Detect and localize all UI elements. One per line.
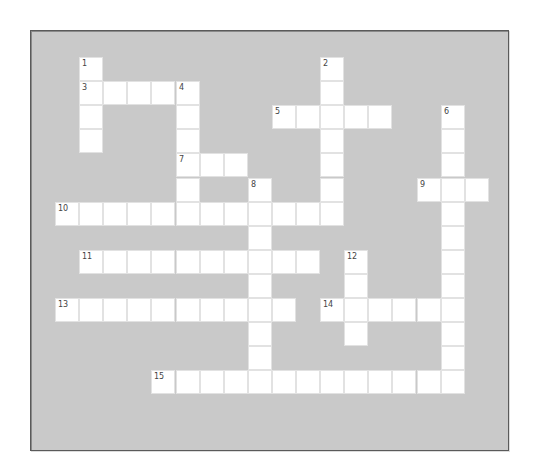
crossword-cell[interactable]: [224, 153, 248, 177]
crossword-cell[interactable]: [200, 298, 224, 322]
crossword-cell[interactable]: [441, 250, 465, 274]
crossword-cell[interactable]: [441, 129, 465, 153]
crossword-cell[interactable]: [344, 105, 368, 129]
crossword-cell[interactable]: [176, 298, 200, 322]
crossword-cell[interactable]: [176, 129, 200, 153]
crossword-cell[interactable]: [151, 298, 175, 322]
crossword-cell[interactable]: [176, 178, 200, 202]
crossword-cell[interactable]: 10: [55, 202, 79, 226]
crossword-cell[interactable]: [248, 346, 272, 370]
crossword-cell[interactable]: [248, 370, 272, 394]
crossword-cell[interactable]: [344, 322, 368, 346]
crossword-cell[interactable]: [79, 105, 103, 129]
crossword-cell[interactable]: [127, 250, 151, 274]
crossword-cell[interactable]: [103, 250, 127, 274]
crossword-cell[interactable]: [296, 105, 320, 129]
crossword-cell[interactable]: [151, 250, 175, 274]
crossword-cell[interactable]: 6: [441, 105, 465, 129]
crossword-cell[interactable]: 14: [320, 298, 344, 322]
crossword-cell[interactable]: [320, 153, 344, 177]
crossword-cell[interactable]: [127, 298, 151, 322]
crossword-cell[interactable]: [103, 81, 127, 105]
crossword-cell[interactable]: [151, 202, 175, 226]
crossword-cell[interactable]: [200, 153, 224, 177]
crossword-cell[interactable]: [272, 370, 296, 394]
clue-number: 11: [82, 252, 92, 261]
crossword-cell[interactable]: [392, 298, 416, 322]
crossword-cell[interactable]: [465, 178, 489, 202]
crossword-cell[interactable]: 11: [79, 250, 103, 274]
crossword-cell[interactable]: [176, 250, 200, 274]
crossword-cell[interactable]: [248, 250, 272, 274]
crossword-cell[interactable]: [441, 178, 465, 202]
crossword-cell[interactable]: [224, 298, 248, 322]
crossword-cell[interactable]: [344, 298, 368, 322]
clue-number: 13: [58, 300, 68, 309]
crossword-cell[interactable]: [224, 202, 248, 226]
crossword-cell[interactable]: [248, 274, 272, 298]
crossword-cell[interactable]: [224, 370, 248, 394]
crossword-cell[interactable]: [103, 298, 127, 322]
crossword-cell[interactable]: 12: [344, 250, 368, 274]
crossword-cell[interactable]: [248, 298, 272, 322]
crossword-cell[interactable]: [320, 81, 344, 105]
crossword-cell[interactable]: [441, 202, 465, 226]
crossword-cell[interactable]: [441, 370, 465, 394]
crossword-cell[interactable]: [79, 298, 103, 322]
crossword-cell[interactable]: [200, 370, 224, 394]
crossword-cell[interactable]: [296, 202, 320, 226]
crossword-cell[interactable]: [248, 322, 272, 346]
crossword-cell[interactable]: [441, 322, 465, 346]
crossword-cell[interactable]: 15: [151, 370, 175, 394]
crossword-cell[interactable]: 1: [79, 57, 103, 81]
crossword-cell[interactable]: [151, 81, 175, 105]
crossword-cell[interactable]: [176, 370, 200, 394]
crossword-cell[interactable]: [248, 226, 272, 250]
crossword-cell[interactable]: [368, 105, 392, 129]
crossword-cell[interactable]: [296, 370, 320, 394]
crossword-cell[interactable]: [417, 298, 441, 322]
crossword-cell[interactable]: [272, 298, 296, 322]
crossword-cell[interactable]: 8: [248, 178, 272, 202]
crossword-cell[interactable]: [441, 346, 465, 370]
crossword-cell[interactable]: [441, 226, 465, 250]
crossword-cell[interactable]: [441, 274, 465, 298]
crossword-cell[interactable]: 2: [320, 57, 344, 81]
crossword-cell[interactable]: 4: [176, 81, 200, 105]
crossword-cell[interactable]: [176, 202, 200, 226]
crossword-cell[interactable]: [344, 274, 368, 298]
clue-number: 4: [179, 83, 184, 92]
crossword-cell[interactable]: [441, 153, 465, 177]
crossword-cell[interactable]: [320, 105, 344, 129]
crossword-cell[interactable]: [441, 298, 465, 322]
crossword-cell[interactable]: [127, 202, 151, 226]
crossword-cell[interactable]: [368, 298, 392, 322]
crossword-cell[interactable]: [392, 370, 416, 394]
crossword-cell[interactable]: [200, 202, 224, 226]
crossword-cell[interactable]: 13: [55, 298, 79, 322]
crossword-cell[interactable]: [344, 370, 368, 394]
crossword-cell[interactable]: 3: [79, 81, 103, 105]
crossword-cell[interactable]: 9: [417, 178, 441, 202]
clue-number: 14: [323, 300, 333, 309]
crossword-cell[interactable]: [320, 202, 344, 226]
crossword-cell[interactable]: [320, 178, 344, 202]
crossword-cell[interactable]: 7: [176, 153, 200, 177]
crossword-cell[interactable]: [248, 202, 272, 226]
crossword-cell[interactable]: [320, 370, 344, 394]
clue-number: 1: [82, 59, 87, 68]
crossword-cell[interactable]: [79, 202, 103, 226]
crossword-cell[interactable]: [272, 250, 296, 274]
crossword-cell[interactable]: [103, 202, 127, 226]
crossword-cell[interactable]: [296, 250, 320, 274]
crossword-cell[interactable]: [127, 81, 151, 105]
crossword-cell[interactable]: 5: [272, 105, 296, 129]
crossword-cell[interactable]: [224, 250, 248, 274]
crossword-cell[interactable]: [79, 129, 103, 153]
crossword-cell[interactable]: [417, 370, 441, 394]
crossword-cell[interactable]: [176, 105, 200, 129]
crossword-cell[interactable]: [320, 129, 344, 153]
crossword-cell[interactable]: [200, 250, 224, 274]
crossword-cell[interactable]: [272, 202, 296, 226]
crossword-cell[interactable]: [368, 370, 392, 394]
